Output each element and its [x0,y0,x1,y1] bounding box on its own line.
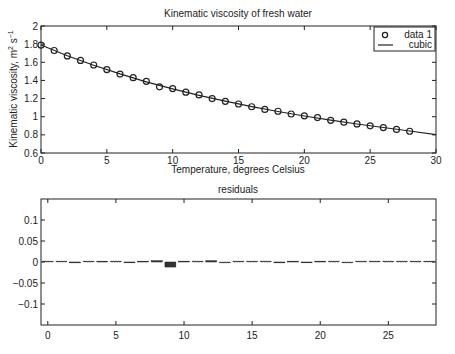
residual-bar [179,261,190,262]
residual-bars [42,261,434,267]
residual-bar [70,262,81,263]
top-x-axis-label: Temperature, degrees Celsius [171,164,304,175]
residual-bar [56,261,67,262]
chart-figure: Kinematic viscosity of fresh water 05101… [0,0,455,354]
residual-bar [383,261,394,262]
x-tick-label: 20 [315,330,327,341]
y-tick-label: 0.8 [24,129,38,140]
residual-bar [274,262,285,263]
y-tick-label: 1.8 [24,39,38,50]
residual-bar [328,261,339,262]
residuals-plot: residuals 0510152025 −0.1−0.0500.050.1 [13,184,436,341]
y-tick-label: 1.4 [24,75,38,86]
y-tick-label: 0.6 [24,148,38,159]
y-tick-label: −0.05 [13,278,39,289]
data-points [38,42,413,134]
y-tick-label: 1 [32,111,38,122]
residual-bar [206,261,217,262]
x-tick-label: 15 [247,330,259,341]
x-tick-label: 0 [45,330,51,341]
x-tick-label: 10 [178,330,190,341]
residual-bar [397,261,408,262]
y-tick-label: 2 [32,21,38,32]
bottom-plot-title: residuals [218,184,258,195]
residual-bar [219,262,230,263]
residual-bar [260,261,271,262]
x-tick-label: 0 [38,155,44,166]
data-point-marker [157,84,163,90]
svg-text:Kinematic viscosity, m2 s−1: Kinematic viscosity, m2 s−1 [7,30,19,147]
residual-bar [301,262,312,263]
x-tick-label: 5 [104,155,110,166]
y-tick-label: 0.1 [24,215,38,226]
residual-bar [192,261,203,262]
bottom-x-ticks: 0510152025 [45,199,394,341]
legend-fit-label: cubic [409,39,432,50]
y-tick-label: 0 [32,257,38,268]
y-tick-label: 1.2 [24,93,38,104]
residual-bar [110,261,121,262]
x-tick-label: 5 [113,330,119,341]
y-tick-label: 1.6 [24,57,38,68]
legend: data 1 cubic [374,27,435,51]
residual-bar [151,261,162,262]
residual-bar [342,262,353,263]
residual-bar [165,262,176,267]
residual-bar [124,262,135,263]
residual-bar [233,261,244,262]
y-tick-label: −0.1 [18,299,38,310]
residual-bar [369,261,380,262]
top-plot-title: Kinematic viscosity of fresh water [164,8,312,19]
residual-bar [138,261,149,262]
residual-bar [424,261,435,262]
x-tick-label: 30 [430,155,442,166]
x-tick-label: 25 [383,330,395,341]
x-tick-label: 25 [365,155,377,166]
residual-bar [356,261,367,262]
residual-bar [288,261,299,262]
residual-bar [247,261,258,262]
residual-bar [42,261,53,262]
viscosity-plot: Kinematic viscosity of fresh water 05101… [7,8,442,175]
residual-bar [97,261,108,262]
cubic-fit-line [41,45,436,135]
top-y-axis-label: Kinematic viscosity, m2 s−1 [7,30,19,147]
y-tick-label: 0.05 [19,236,39,247]
residual-bar [410,261,421,262]
residual-bar [315,261,326,262]
residual-bar [83,261,94,262]
